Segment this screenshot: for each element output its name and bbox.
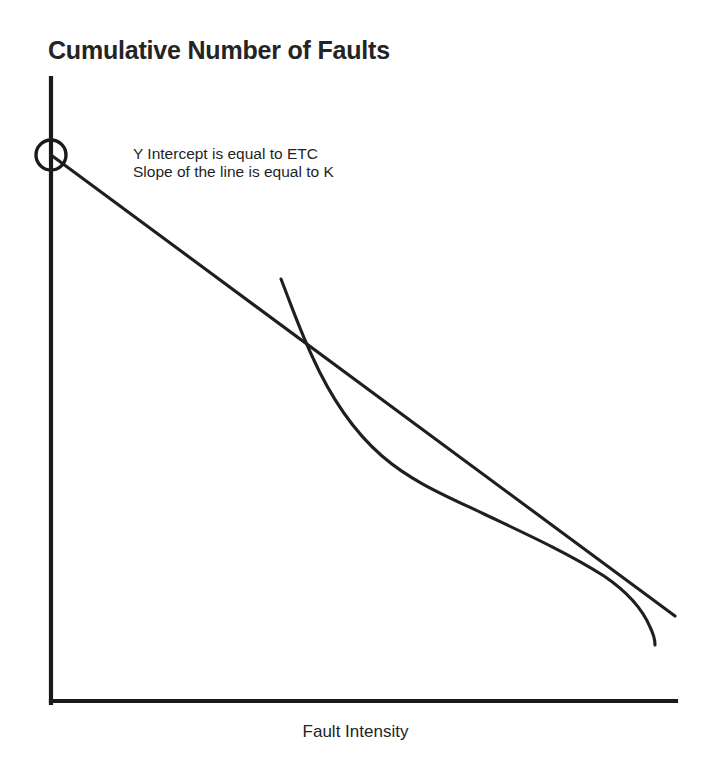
chart-annotation: Y Intercept is equal to ETC Slope of the… bbox=[133, 145, 334, 181]
annotation-line-1: Y Intercept is equal to ETC bbox=[133, 145, 334, 163]
fitted-straight-line bbox=[51, 155, 675, 616]
chart-title: Cumulative Number of Faults bbox=[48, 36, 390, 65]
chart-plot-area bbox=[0, 0, 711, 763]
chart-figure: Cumulative Number of Faults Y Intercept … bbox=[0, 0, 711, 763]
annotation-line-2: Slope of the line is equal to K bbox=[133, 163, 334, 181]
x-axis-label: Fault Intensity bbox=[0, 722, 711, 742]
